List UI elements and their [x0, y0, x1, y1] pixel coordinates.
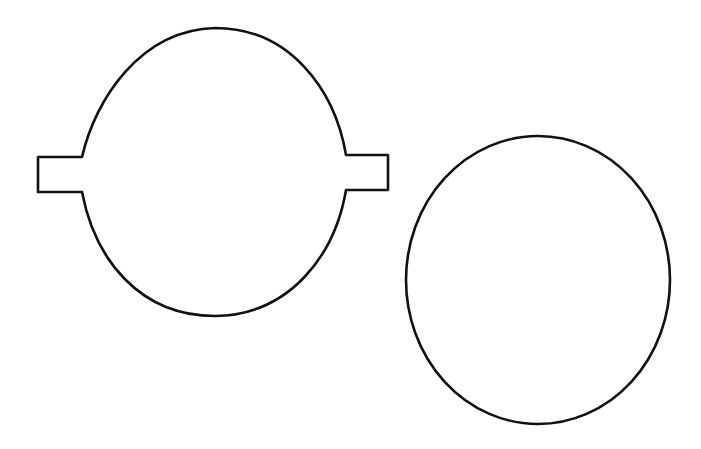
circle-with-tabs	[38, 28, 388, 316]
plain-circle	[406, 136, 670, 424]
diagram-canvas	[0, 0, 701, 449]
